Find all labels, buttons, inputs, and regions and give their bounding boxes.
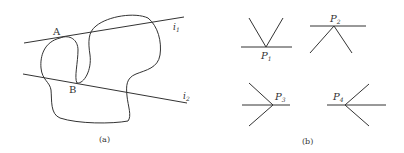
line-l2-label: i2: [183, 91, 190, 102]
point-a-label: A: [52, 26, 61, 37]
p2-label: P2: [329, 13, 341, 25]
line-l1-label: i1: [173, 22, 180, 33]
line-l2: [23, 74, 187, 103]
vertex-p2: P2: [310, 13, 366, 53]
figure-b: P1 P2 P3 P4: [241, 13, 386, 146]
caption-a: (a): [99, 135, 110, 144]
vertex-p3: P3: [242, 83, 290, 126]
caption-b: (b): [302, 137, 313, 146]
diagram-canvas: A B i1 i2 (a) P1 P2: [0, 0, 404, 153]
p4-label: P4: [332, 91, 344, 103]
figure-a: A B i1 i2 (a): [23, 15, 190, 144]
p1-label: P1: [260, 50, 272, 62]
vertex-p4: P4: [327, 84, 386, 126]
vertex-p1: P1: [241, 18, 292, 62]
p3-label: P3: [274, 91, 286, 103]
point-b-label: B: [69, 84, 76, 95]
